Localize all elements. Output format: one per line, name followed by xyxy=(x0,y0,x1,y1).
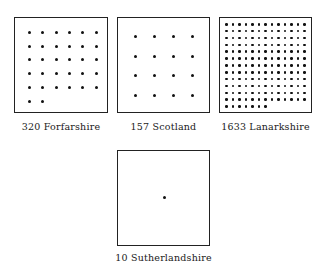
density-dot xyxy=(251,23,254,26)
density-dot xyxy=(271,64,274,67)
density-dot xyxy=(95,45,98,48)
density-dot xyxy=(277,64,280,67)
density-dot xyxy=(303,23,306,26)
density-dot xyxy=(284,50,287,53)
density-dot xyxy=(258,57,261,60)
density-dot xyxy=(245,71,248,74)
density-dot xyxy=(277,50,280,53)
density-dot xyxy=(277,44,280,47)
density-dot xyxy=(303,44,306,47)
density-dot xyxy=(68,86,71,89)
density-dot xyxy=(290,64,293,67)
density-dot xyxy=(284,23,287,26)
density-dot xyxy=(134,94,137,97)
density-dot xyxy=(271,50,274,53)
density-dot xyxy=(284,57,287,60)
density-dot xyxy=(264,98,267,101)
density-dot xyxy=(277,37,280,40)
density-dot xyxy=(284,71,287,74)
density-dot xyxy=(68,72,71,75)
density-dot xyxy=(225,37,228,40)
density-dot xyxy=(303,37,306,40)
density-dot xyxy=(225,44,228,47)
density-dot xyxy=(225,57,228,60)
density-dot xyxy=(238,23,241,26)
sutherlandshire-caption: 10 Sutherlandshire xyxy=(107,252,220,261)
density-dot xyxy=(258,105,261,108)
density-dot xyxy=(28,31,31,34)
density-dot xyxy=(277,23,280,26)
density-dot xyxy=(225,105,228,108)
density-dot xyxy=(238,92,241,95)
density-dot xyxy=(225,92,228,95)
density-dot xyxy=(55,31,58,34)
density-dot xyxy=(251,37,254,40)
density-dot xyxy=(134,55,137,58)
density-dot xyxy=(303,85,306,88)
density-dot xyxy=(245,105,248,108)
density-dot xyxy=(153,55,156,58)
density-dot xyxy=(277,92,280,95)
density-dot xyxy=(232,71,235,74)
density-dot xyxy=(225,71,228,74)
density-dot xyxy=(284,64,287,67)
density-dot xyxy=(232,92,235,95)
density-dot xyxy=(191,55,194,58)
density-dot xyxy=(264,23,267,26)
density-dot xyxy=(264,44,267,47)
density-dot xyxy=(297,92,300,95)
density-dot xyxy=(232,57,235,60)
density-dot xyxy=(55,86,58,89)
density-dot xyxy=(251,85,254,88)
density-dot xyxy=(258,71,261,74)
density-dot xyxy=(264,92,267,95)
density-dot xyxy=(172,55,175,58)
density-dot xyxy=(245,64,248,67)
forfarshire-caption: 320 Forfarshire xyxy=(14,121,108,132)
density-dot xyxy=(258,50,261,53)
density-dot xyxy=(303,71,306,74)
density-dot xyxy=(238,57,241,60)
density-dot xyxy=(290,71,293,74)
density-dot xyxy=(225,98,228,101)
density-dot xyxy=(68,45,71,48)
density-dot xyxy=(81,86,84,89)
density-dot xyxy=(290,37,293,40)
density-dot xyxy=(271,57,274,60)
density-dot xyxy=(55,72,58,75)
density-dot xyxy=(134,35,137,38)
density-dot xyxy=(264,85,267,88)
density-dot xyxy=(290,23,293,26)
density-dot xyxy=(172,74,175,77)
density-dot xyxy=(264,105,267,108)
density-dot xyxy=(251,105,254,108)
density-dot xyxy=(238,85,241,88)
density-dot xyxy=(238,71,241,74)
density-dot xyxy=(191,35,194,38)
density-dot xyxy=(172,94,175,97)
density-dot xyxy=(303,98,306,101)
density-dot xyxy=(28,100,31,103)
density-dot xyxy=(290,44,293,47)
density-dot xyxy=(258,98,261,101)
density-dot xyxy=(271,98,274,101)
density-dot xyxy=(271,71,274,74)
density-dot xyxy=(297,98,300,101)
density-dot xyxy=(225,50,228,53)
density-dot xyxy=(153,74,156,77)
density-dot xyxy=(153,94,156,97)
density-dot xyxy=(232,50,235,53)
density-dot xyxy=(245,98,248,101)
density-dot xyxy=(55,45,58,48)
density-dot xyxy=(284,92,287,95)
density-dot xyxy=(232,23,235,26)
density-dot xyxy=(245,92,248,95)
density-dot xyxy=(284,98,287,101)
density-dot xyxy=(277,71,280,74)
density-dot xyxy=(172,35,175,38)
density-dot xyxy=(290,57,293,60)
lanarkshire-caption: 1633 Lanarkshire xyxy=(219,121,312,132)
density-dot xyxy=(271,23,274,26)
density-dot xyxy=(297,23,300,26)
density-dot xyxy=(238,105,241,108)
